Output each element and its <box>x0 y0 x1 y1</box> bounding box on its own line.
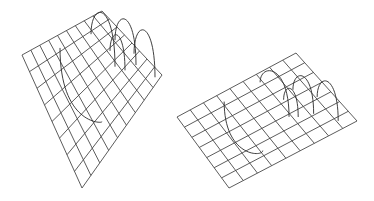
valley-curve <box>60 48 102 122</box>
wireframe-figure <box>0 0 374 201</box>
arch-curve <box>317 81 338 121</box>
grid-line-u <box>207 92 331 158</box>
grid-line-u <box>67 59 147 155</box>
grid-line-u <box>37 27 117 88</box>
grid-line-v <box>84 21 144 100</box>
grid-line-u <box>60 51 140 138</box>
grid-line-u <box>222 111 349 178</box>
grid-line-u <box>45 35 125 105</box>
grid-line-u <box>177 53 296 117</box>
grid-line-u <box>229 121 357 188</box>
grid-line-v <box>75 26 135 113</box>
grid-line-v <box>22 55 82 188</box>
left-wireframe-surface <box>22 11 162 188</box>
grid-line-u <box>214 102 339 168</box>
grid-line-u <box>192 72 314 137</box>
grid-line-v <box>93 16 153 88</box>
grid-line-v <box>296 53 357 121</box>
grid-line-u <box>82 75 162 188</box>
right-wireframe-surface <box>177 53 357 188</box>
grid-line-v <box>58 35 118 137</box>
grid-line-u <box>199 82 322 147</box>
grid-line-u <box>22 11 102 55</box>
